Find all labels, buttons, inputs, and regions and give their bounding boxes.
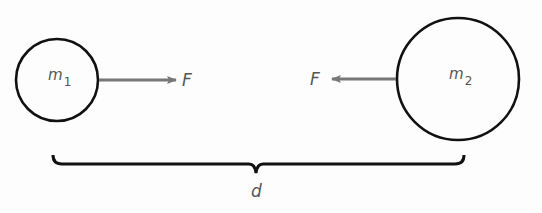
gravity-diagram: m1 F m2 F d: [0, 0, 542, 213]
distance-label: d: [251, 181, 262, 201]
force-2-label: F: [310, 69, 320, 89]
mass-1-label: m1: [48, 66, 71, 89]
distance-brace: [53, 155, 464, 173]
force-1-label: F: [182, 70, 192, 90]
mass-2-label: m2: [449, 65, 472, 88]
diagram-svg: m1 F m2 F d: [0, 0, 542, 213]
